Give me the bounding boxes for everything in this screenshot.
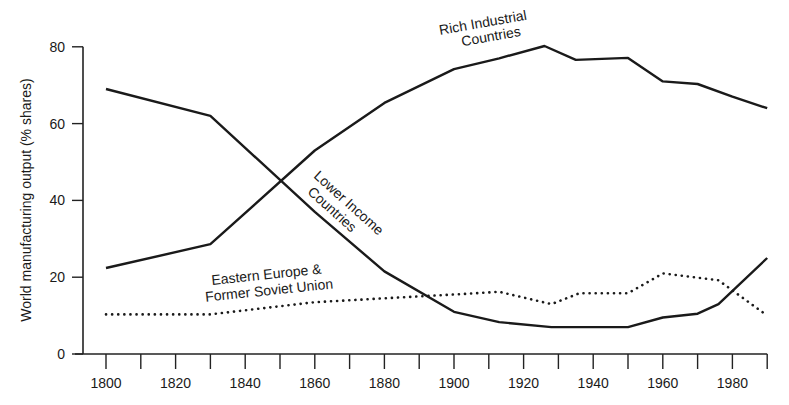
x-tick-label: 1840 — [230, 375, 261, 391]
annotation-eastern-europe: Eastern Europe & Former Soviet Union — [203, 259, 334, 304]
line-chart: 0204060801800182018401860188019001920194… — [0, 0, 789, 405]
y-tick-label: 0 — [57, 346, 65, 362]
x-tick-label: 1860 — [299, 375, 330, 391]
series-line-0 — [106, 46, 767, 268]
x-tick-label: 1900 — [438, 375, 469, 391]
x-tick-label: 1920 — [508, 375, 539, 391]
x-tick-label: 1940 — [578, 375, 609, 391]
y-axis-label: World manufacturing output (% shares) — [18, 78, 34, 321]
x-tick-label: 1800 — [90, 375, 121, 391]
x-tick-label: 1820 — [160, 375, 191, 391]
series-lines — [106, 46, 767, 327]
annotation-rich-industrial: Rich Industrial Countries — [438, 6, 535, 53]
x-tick-label: 1880 — [369, 375, 400, 391]
y-tick-label: 80 — [49, 39, 65, 55]
x-tick-label: 1960 — [647, 375, 678, 391]
x-tick-label: 1980 — [717, 375, 748, 391]
y-tick-label: 20 — [49, 269, 65, 285]
y-tick-label: 60 — [49, 116, 65, 132]
y-tick-label: 40 — [49, 192, 65, 208]
